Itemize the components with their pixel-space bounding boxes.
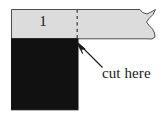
paper-strip-shape xyxy=(12,10,156,40)
cut-here-annotation-label: cut here xyxy=(102,66,151,81)
cut-here-diagram: 1 cut here xyxy=(0,0,166,116)
piece-number-label: 1 xyxy=(36,14,50,29)
black-square-shape xyxy=(12,39,79,110)
arrow-leader-line xyxy=(82,47,103,68)
diagram-graphics-layer xyxy=(0,0,166,116)
